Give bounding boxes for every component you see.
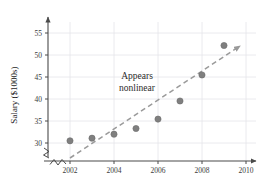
annotation-line-1: Appears: [121, 71, 153, 81]
y-tick-label: 40: [35, 95, 43, 104]
annotation-appears-nonlinear: Appears nonlinear: [119, 71, 156, 93]
x-tick-label: 2008: [195, 166, 210, 175]
data-point: [199, 72, 205, 78]
x-tick-label: 2006: [151, 166, 166, 175]
x-tick-label: 2004: [107, 166, 122, 175]
chart-canvas: 55 50 45 40 35 30 2002 2004 2006 2008 20…: [0, 0, 269, 189]
data-point: [111, 131, 117, 137]
x-axis-break-icon: [50, 160, 66, 166]
y-tick-label: 45: [35, 73, 43, 82]
data-point: [133, 125, 139, 131]
x-tick-labels: 2002 2004 2006 2008 2010: [63, 166, 254, 175]
x-tick-label: 2002: [63, 166, 78, 175]
data-point: [177, 98, 183, 104]
axis-break-marks: [44, 148, 67, 165]
y-tick-labels: 55 50 45 40 35 30: [35, 29, 43, 148]
y-tick-label: 55: [35, 29, 43, 38]
data-point: [89, 135, 95, 141]
data-point: [155, 116, 161, 122]
scatter-chart: 55 50 45 40 35 30 2002 2004 2006 2008 20…: [0, 0, 269, 189]
annotation-line-2: nonlinear: [119, 83, 156, 93]
y-tick-label: 35: [35, 117, 43, 126]
data-point: [221, 42, 227, 48]
trendline: [70, 46, 240, 158]
data-point: [67, 138, 73, 144]
y-axis-title: Salary ($1000s): [9, 66, 19, 123]
y-tick-label: 50: [35, 51, 43, 60]
data-points: [67, 42, 227, 143]
x-tick-label: 2010: [239, 166, 254, 175]
vertical-gridlines: [70, 22, 246, 161]
y-tick-label: 30: [35, 139, 43, 148]
